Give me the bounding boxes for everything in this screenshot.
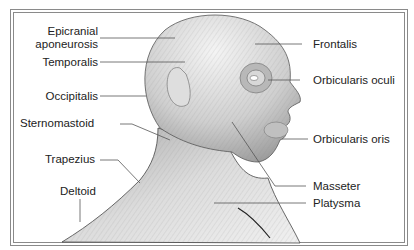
label-frontalis: Frontalis	[313, 38, 357, 51]
orbicularis-oris-shape	[264, 122, 288, 138]
label-sternomastoid: Sternomastoid	[20, 117, 94, 130]
label-masseter: Masseter	[313, 180, 360, 193]
label-deltoid: Deltoid	[60, 185, 96, 198]
label-orbicularis-oris: Orbicularis oris	[313, 133, 390, 146]
label-epicranial-aponeurosis: Epicranial aponeurosis	[18, 25, 98, 51]
label-occipitalis: Occipitalis	[18, 90, 98, 103]
label-platysma: Platysma	[313, 197, 360, 210]
label-orbicularis-oculi: Orbicularis oculi	[313, 74, 395, 87]
label-temporalis: Temporalis	[18, 56, 98, 69]
label-trapezius: Trapezius	[45, 153, 95, 166]
